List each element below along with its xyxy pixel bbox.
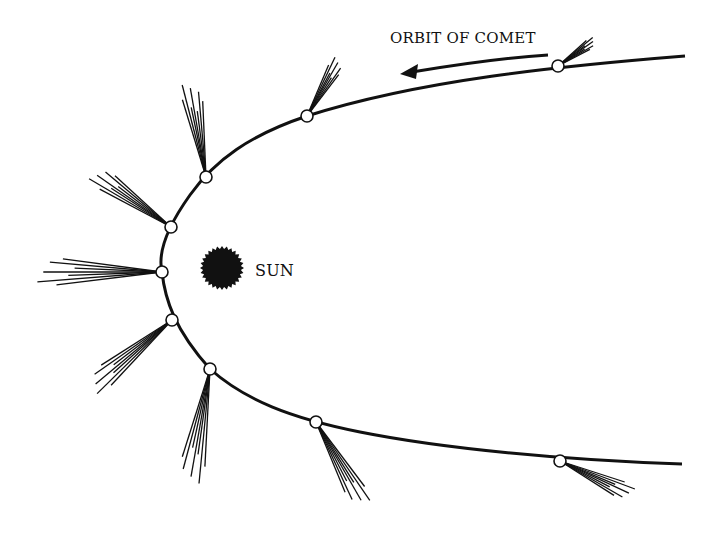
sun-label: SUN bbox=[255, 261, 294, 280]
comet-nucleus-icon bbox=[166, 314, 178, 326]
comet-nucleus-icon bbox=[204, 363, 216, 375]
orbit-label: ORBIT OF COMET bbox=[390, 29, 536, 47]
comet-nucleus-icon bbox=[552, 60, 564, 72]
comet-nucleus-icon bbox=[301, 110, 313, 122]
comet-tail-ray bbox=[37, 272, 162, 282]
comet-nucleus-icon bbox=[200, 171, 212, 183]
sun-icon bbox=[200, 246, 244, 290]
comet-tail-ray bbox=[97, 320, 172, 394]
comet-nucleus-icon bbox=[165, 221, 177, 233]
comet-tail-ray bbox=[96, 320, 172, 384]
comet-nucleus-icon bbox=[156, 266, 168, 278]
comet-nucleus-icon bbox=[310, 416, 322, 428]
comet-nucleus-icon bbox=[554, 455, 566, 467]
diagram-canvas bbox=[0, 0, 723, 548]
direction-arrow-icon bbox=[400, 55, 548, 79]
comet-orbit-diagram: ORBIT OF COMET SUN bbox=[0, 0, 723, 548]
comet-tail-ray bbox=[50, 262, 162, 272]
